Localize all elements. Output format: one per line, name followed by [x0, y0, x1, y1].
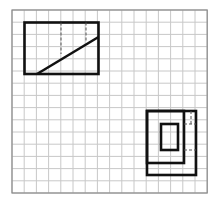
rectangle-with-diagonal-figure	[25, 23, 99, 75]
inner-rectangle	[161, 124, 178, 150]
outer-rectangle	[147, 111, 196, 175]
diagonal-line	[37, 37, 99, 74]
grid-diagram	[0, 0, 219, 198]
nested-rectangles-figure	[147, 111, 196, 175]
grid-paper	[12, 10, 207, 193]
